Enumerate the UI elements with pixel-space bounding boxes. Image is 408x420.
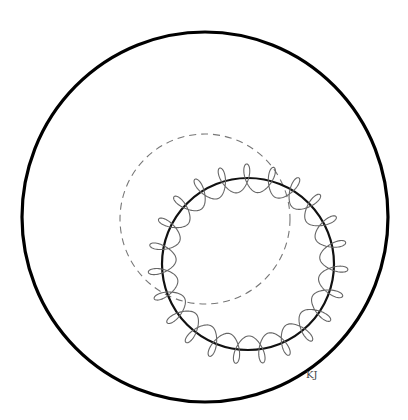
dashed-orbit-circle [120,134,290,304]
artist-signature: KJ [306,369,317,380]
orbit-diagram [0,0,408,420]
standing-wave-curve [148,164,347,363]
outer-circle [22,32,388,402]
